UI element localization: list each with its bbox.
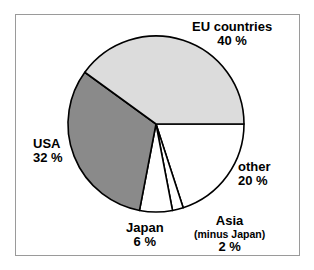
pie-slice-group (68, 36, 244, 212)
pie-label-usa: USA 32 % (33, 137, 63, 165)
pie-label-other-name: other (238, 159, 271, 174)
pie-chart-figure: EU countries 40 % USA 32 % other 20 % Ja… (0, 0, 314, 270)
pie-label-japan: Japan 6 % (126, 221, 164, 249)
pie-label-other: other 20 % (238, 160, 271, 188)
pie-label-other-value: 20 % (238, 174, 271, 188)
pie-label-japan-name: Japan (126, 220, 164, 235)
pie-label-asia: Asia (minus Japan) 2 % (194, 214, 265, 254)
pie-label-asia-value: 2 % (194, 240, 265, 254)
pie-label-eu-countries-name: EU countries (192, 19, 272, 34)
pie-label-usa-name: USA (33, 136, 60, 151)
pie-label-eu-countries-value: 40 % (192, 34, 272, 48)
pie-label-japan-value: 6 % (126, 235, 164, 249)
pie-label-asia-name: Asia (216, 213, 243, 228)
pie-label-eu-countries: EU countries 40 % (192, 20, 272, 48)
pie-label-usa-value: 32 % (33, 151, 63, 165)
